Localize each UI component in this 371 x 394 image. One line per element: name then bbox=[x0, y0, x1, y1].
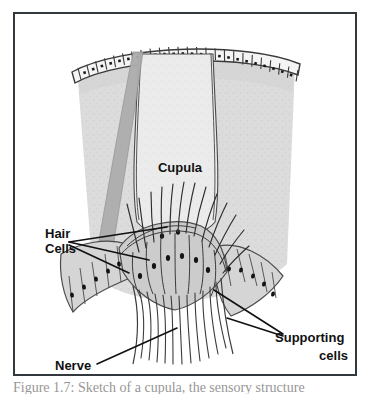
figure-caption: Figure 1.7: Sketch of a cupula, the sens… bbox=[13, 381, 357, 394]
label-supporting-cells: Supporting cells bbox=[275, 330, 348, 363]
figure-container: Hair Cells Cupula Nerve Supporting cells… bbox=[0, 0, 371, 394]
figure-caption-row: Figure 1.7: Sketch of a cupula, the sens… bbox=[13, 381, 357, 394]
cupula-anatomy-diagram: Hair Cells Cupula Nerve Supporting cells bbox=[15, 14, 355, 374]
cupula-body bbox=[134, 54, 218, 236]
figure-border-frame: Hair Cells Cupula Nerve Supporting cells bbox=[13, 12, 357, 376]
label-cupula: Cupula bbox=[158, 160, 203, 175]
label-hair-cells: Hair Cells bbox=[45, 226, 76, 256]
label-nerve: Nerve bbox=[55, 358, 91, 373]
